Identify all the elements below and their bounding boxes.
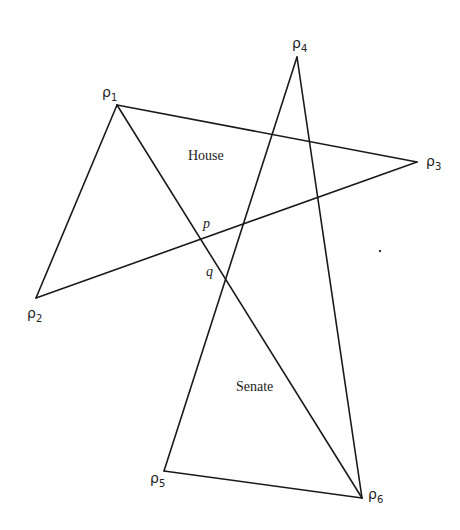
edges-group	[36, 57, 417, 498]
edge-p4-p5	[164, 57, 297, 471]
house-region-label: House	[188, 148, 224, 163]
vertex-label-p2: ρ2	[27, 305, 42, 324]
vertex-label-p5: ρ5	[150, 470, 165, 489]
vertex-labels-group: ρ1ρ2ρ3ρ4ρ5ρ6	[27, 35, 441, 505]
edge-p1-p6	[117, 105, 362, 498]
vertex-label-p1: ρ1	[102, 84, 117, 103]
vertex-label-p3: ρ3	[426, 153, 441, 172]
edge-p1-p2	[36, 105, 117, 298]
edge-p4-p6	[297, 57, 362, 498]
senate-region-label: Senate	[236, 379, 273, 394]
polygon-diagram: ρ1ρ2ρ3ρ4ρ5ρ6 House Senate p q	[0, 0, 460, 530]
edge-p5-p6	[164, 471, 362, 498]
vertex-label-p6: ρ6	[368, 486, 383, 505]
stray-dot	[379, 250, 381, 252]
edge-p1-p3	[117, 105, 417, 162]
point-p-label: p	[202, 216, 210, 231]
point-q-label: q	[206, 264, 213, 279]
vertex-label-p4: ρ4	[292, 35, 307, 54]
